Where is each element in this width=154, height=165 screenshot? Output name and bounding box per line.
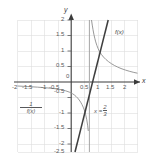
axis-lines xyxy=(14,17,140,152)
xtick-label: 1 xyxy=(96,84,99,90)
asymptote-numerator: 2 xyxy=(103,104,106,110)
xtick-label-origin: 0 xyxy=(66,73,69,79)
xtick-label: -1 xyxy=(41,84,46,90)
ytick-label: -1 xyxy=(59,109,64,115)
ytick-label: -2.5 xyxy=(54,148,64,154)
ytick-label: 1 xyxy=(61,47,64,53)
ytick-label: 1.5 xyxy=(56,31,64,37)
asymptote-lhs: x = xyxy=(94,108,102,114)
ytick-label: -2 xyxy=(59,140,64,146)
ytick-label: 2 xyxy=(61,16,64,22)
asymptote-denominator: 3 xyxy=(103,110,106,117)
y-axis-arrowhead xyxy=(69,14,74,21)
coordinate-plane xyxy=(0,0,154,165)
xtick-label: 1.5 xyxy=(106,84,114,90)
grid-lines xyxy=(18,20,138,152)
ytick-label: 0.5 xyxy=(56,62,64,68)
xtick-label: 0.5 xyxy=(80,84,88,90)
graph-figure: x y -2 -1.5 -1 -0.5 0 0.5 1 1.5 2 2 1.5 … xyxy=(0,0,154,165)
x-axis-label: x xyxy=(142,77,146,84)
xtick-label: -2 xyxy=(12,84,17,90)
ytick-label: -0.5 xyxy=(54,88,64,94)
asymptote-fraction: 2 3 xyxy=(103,104,106,118)
xtick-label: -1.5 xyxy=(22,84,32,90)
function-label-reciprocal: 1 f(x) xyxy=(20,101,42,115)
x-axis-arrowhead xyxy=(134,79,140,84)
function-label-fx: f(x) xyxy=(115,29,124,35)
asymptote-equation-label: x = 2 3 xyxy=(94,104,107,118)
y-axis-label: y xyxy=(64,6,68,13)
xtick-label: 2 xyxy=(123,84,126,90)
ytick-label: -1.5 xyxy=(54,124,64,130)
reciprocal-denominator: f(x) xyxy=(20,108,42,114)
reciprocal-right-branch xyxy=(92,20,138,73)
